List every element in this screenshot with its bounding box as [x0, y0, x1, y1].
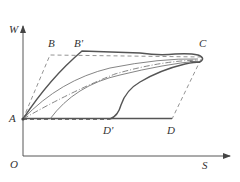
point-label-B-prime: B' [74, 38, 83, 49]
diagram-canvas: W S O A B B' C D D' [0, 0, 240, 182]
diagram-svg [0, 0, 240, 182]
origin-label: O [10, 159, 18, 170]
point-A-dot [21, 117, 24, 120]
y-axis-label: W [9, 24, 18, 35]
point-label-A: A [9, 113, 16, 124]
outer-curve-AB'C [23, 51, 203, 119]
point-label-C: C [199, 38, 206, 49]
x-axis-label: S [202, 160, 208, 171]
dashed-parallelogram-ABCD [23, 55, 202, 119]
dash-dot-curve [23, 60, 198, 119]
point-label-B: B [48, 38, 55, 49]
point-label-D-prime: D' [103, 125, 113, 136]
point-label-D: D [167, 125, 175, 136]
curve-D'C [110, 62, 200, 119]
